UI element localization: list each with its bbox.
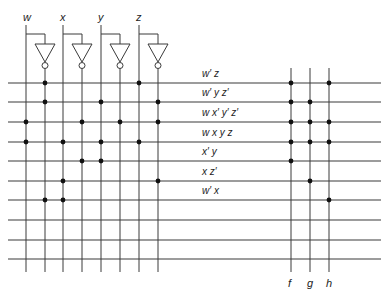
or-connection-dot	[308, 120, 313, 125]
and-connection-dot	[61, 198, 66, 203]
and-connection-dot	[99, 159, 104, 164]
product-term-label: x′ y	[201, 146, 218, 157]
output-label: f	[288, 277, 292, 289]
and-connection-dot	[24, 120, 29, 125]
or-connection-dot	[289, 140, 294, 145]
product-term-label: w′ z	[202, 68, 219, 79]
and-connection-dot	[61, 140, 66, 145]
product-term-label: w x′ y′ z′	[202, 107, 239, 118]
and-connection-dot	[80, 159, 85, 164]
inverter-branch	[26, 34, 45, 44]
or-connection-dot	[327, 140, 332, 145]
or-connection-dot	[289, 120, 294, 125]
input-label: w	[23, 11, 32, 23]
inverter-bubble-icon	[117, 63, 123, 69]
or-connection-dot	[289, 159, 294, 164]
pla-diagram: wxyz fgh w′ zw′ y z′w x′ y′ z′w x y zx′ …	[0, 0, 390, 292]
inverter-bubble-icon	[79, 63, 85, 69]
input-label: z	[135, 11, 142, 23]
or-connection-dot	[327, 81, 332, 86]
or-connection-dot	[308, 100, 313, 105]
product-term-lines	[8, 83, 381, 259]
and-connection-dot	[99, 140, 104, 145]
input-label: x	[59, 11, 66, 23]
inverter-gate-icon	[148, 44, 168, 62]
and-connection-dot	[137, 81, 142, 86]
and-connection-dot	[156, 100, 161, 105]
inverter-branch	[63, 34, 82, 44]
and-connection-dot	[43, 198, 48, 203]
product-term-label: w′ x	[202, 185, 220, 196]
output-label: h	[326, 277, 332, 289]
and-connection-dot	[99, 100, 104, 105]
inverter-branch	[101, 34, 120, 44]
product-term-label: w x y z	[202, 127, 233, 138]
product-term-label: x z′	[201, 166, 218, 177]
or-connection-dot	[308, 179, 313, 184]
and-connection-dot	[156, 120, 161, 125]
input-label: y	[97, 11, 105, 23]
or-connection-dot	[327, 120, 332, 125]
or-connection-dot	[289, 100, 294, 105]
inverter-gate-icon	[72, 44, 92, 62]
and-connection-dot	[156, 179, 161, 184]
inverter-gate-icon	[110, 44, 130, 62]
inverter-branch	[139, 34, 158, 44]
product-term-labels: w′ zw′ y z′w x′ y′ z′w x y zx′ yx z′w′ x	[201, 68, 239, 196]
and-connection-dot	[43, 100, 48, 105]
output-label: g	[307, 277, 314, 289]
inverter-gate-icon	[35, 44, 55, 62]
and-connection-dot	[24, 140, 29, 145]
and-connection-dot	[80, 120, 85, 125]
and-connection-dot	[118, 120, 123, 125]
inverter-bubble-icon	[155, 63, 161, 69]
or-connection-dot	[289, 81, 294, 86]
or-connection-dot	[327, 198, 332, 203]
or-connection-dot	[308, 140, 313, 145]
inverter-bubble-icon	[42, 63, 48, 69]
product-term-label: w′ y z′	[202, 87, 230, 98]
and-connection-dot	[137, 140, 142, 145]
and-connection-dot	[61, 179, 66, 184]
and-connection-dot	[43, 81, 48, 86]
